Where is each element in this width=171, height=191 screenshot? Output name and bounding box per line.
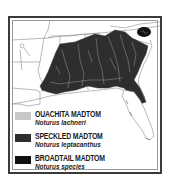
legend-item-broadtail-madtom: BROADTAIL MADTOM Noturus species [15,153,155,173]
legend-swatch [15,134,31,142]
legend-swatch [15,112,31,120]
legend-swatch [15,156,31,164]
legend-scientific-name: Noturus leptacanthus [35,140,101,150]
legend-item-speckled-madtom: SPECKLED MADTOM Noturus leptacanthus [15,131,155,151]
legend-item-ouachita-madtom: OUACHITA MADTOM Noturus lachneri [15,109,155,129]
legend-scientific-name: Noturus species [35,162,85,172]
legend-scientific-name: Noturus lachneri [35,118,86,128]
